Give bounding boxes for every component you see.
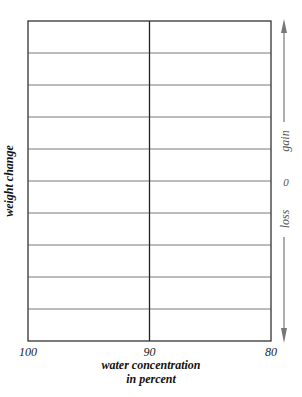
gain-arrowhead-icon <box>281 19 287 33</box>
loss-label: loss <box>278 209 292 228</box>
grid <box>28 21 271 341</box>
zero-label: 0 <box>283 176 289 188</box>
loss-arrowhead-icon <box>281 328 287 343</box>
x-axis-label-line2: in percent <box>126 372 176 386</box>
x-tick-label: 90 <box>144 345 156 359</box>
y-axis-label: weight change <box>2 144 16 216</box>
x-tick-labels: 1009080 <box>19 345 277 359</box>
chart-canvas: 1009080 weight change water concentratio… <box>0 0 302 397</box>
x-tick-label: 80 <box>265 345 277 359</box>
x-tick-label: 100 <box>19 345 37 359</box>
gain-label: gain <box>278 130 292 151</box>
x-axis-label-line1: water concentration <box>101 358 200 372</box>
